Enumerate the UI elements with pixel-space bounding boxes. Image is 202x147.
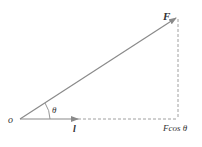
force-vector-arrow (20, 18, 176, 119)
force-label: F (162, 10, 171, 22)
angle-arc (45, 103, 50, 119)
vector-projection-diagram: o F l θ Fcos θ (0, 0, 202, 147)
angle-label: θ (52, 105, 57, 115)
direction-label: l (73, 123, 76, 134)
origin-label: o (8, 114, 13, 125)
projection-label: Fcos θ (162, 123, 188, 133)
